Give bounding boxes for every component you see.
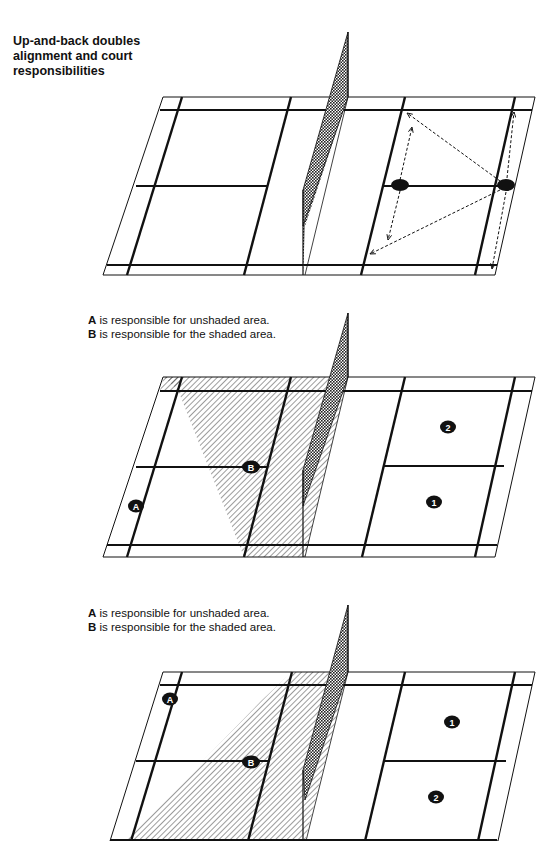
opponent-1-badge: 1 (444, 716, 460, 729)
arrow-front-up (400, 127, 412, 180)
svg-text:B: B (248, 463, 255, 473)
court-diagrams: A B 2 1 (0, 0, 554, 841)
player-a-badge: A (128, 500, 144, 513)
arrow-back-to-front-corner (407, 113, 500, 181)
svg-text:1: 1 (431, 498, 436, 508)
svg-text:B: B (248, 758, 255, 768)
player-b-badge: B (242, 756, 260, 769)
player-a-badge: A (162, 693, 178, 706)
svg-text:A: A (133, 502, 140, 512)
svg-text:A: A (167, 695, 174, 705)
arrow-back-to-bottom-corner (370, 190, 500, 254)
sideline-right-back (478, 672, 515, 841)
player-b-badge: B (242, 461, 260, 474)
movement-arrows (370, 112, 514, 269)
court-panel-2: A B 2 1 (103, 313, 535, 557)
net (303, 32, 348, 226)
opponent-2-badge: 2 (440, 421, 456, 434)
short-service-right (365, 672, 405, 841)
court-panel-3: A B 1 2 (110, 605, 535, 841)
arrow-front-down (388, 191, 400, 240)
player-front-marker (391, 179, 409, 191)
court-panel-1 (103, 32, 535, 275)
svg-text:2: 2 (433, 793, 438, 803)
opponent-2-badge: 2 (428, 791, 444, 804)
opponent-1-badge: 1 (426, 496, 442, 509)
svg-text:2: 2 (445, 423, 450, 433)
svg-text:1: 1 (449, 718, 454, 728)
